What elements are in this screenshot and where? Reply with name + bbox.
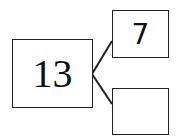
part-box-top: 7 xyxy=(112,10,169,58)
whole-value: 13 xyxy=(33,50,73,97)
part-box-bottom-empty[interactable] xyxy=(112,88,169,135)
whole-box: 13 xyxy=(12,39,93,108)
part-value-top: 7 xyxy=(132,18,150,51)
